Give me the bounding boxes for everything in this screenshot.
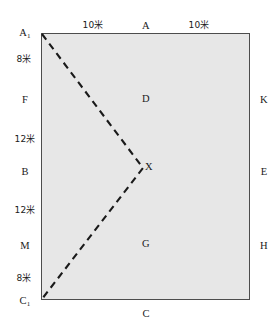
top-left-segment-length: 10米 — [82, 20, 103, 31]
top-midpoint-label: A — [142, 20, 150, 31]
region-label-G: G — [142, 238, 150, 249]
corner-label-C1-subscript: 1 — [27, 300, 31, 308]
left-point-F: F — [22, 94, 28, 105]
vertex-label-X: X — [145, 161, 153, 172]
left-length-12m-lower: 12米 — [14, 205, 35, 216]
top-right-segment-length: 10米 — [188, 20, 209, 31]
left-point-B: B — [21, 166, 28, 177]
right-point-E: E — [261, 166, 268, 177]
right-point-H: H — [260, 240, 268, 251]
left-point-M: M — [20, 240, 30, 251]
corner-label-A1-base: A — [19, 27, 27, 38]
region-label-D: D — [142, 93, 150, 104]
left-length-12m-upper: 12米 — [14, 134, 35, 145]
corner-label-A1-subscript: 1 — [27, 32, 31, 40]
bottom-midpoint-label: C — [142, 308, 149, 319]
corner-label-C1: C1 — [20, 295, 31, 308]
left-length-8m-upper: 8米 — [16, 54, 31, 65]
right-point-K: K — [260, 94, 268, 105]
corner-label-A1: A1 — [19, 27, 31, 40]
left-length-8m-lower: 8米 — [16, 273, 31, 284]
diagram-canvas: 10米 A 10米 A1 8米 F 12米 B 12米 M 8米 C1 K E … — [0, 0, 280, 330]
